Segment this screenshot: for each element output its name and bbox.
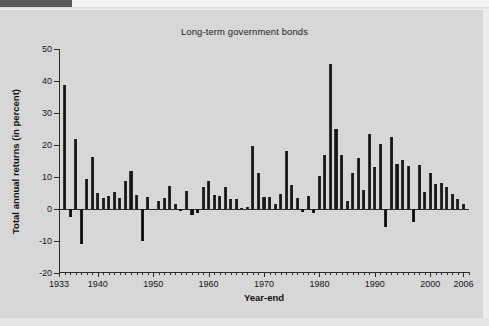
bar (96, 193, 99, 209)
bar (69, 209, 72, 217)
x-tick-minor (137, 272, 138, 276)
x-tick-minor (364, 272, 365, 276)
x-tick-minor (70, 272, 71, 276)
x-tick-minor (131, 272, 132, 276)
y-tick-label: 50 (42, 44, 52, 54)
x-tick-minor (170, 272, 171, 276)
x-tick-minor (303, 272, 304, 276)
x-tick-minor (347, 272, 348, 276)
x-tick-minor (186, 272, 187, 276)
x-tick-minor (380, 272, 381, 276)
y-tick-label: 40 (42, 76, 52, 86)
x-tick-minor (247, 272, 248, 276)
x-tick-major (209, 272, 210, 278)
x-tick-major (430, 272, 431, 278)
bar (357, 158, 360, 209)
bar (340, 155, 343, 209)
x-tick-minor (386, 272, 387, 276)
bar (401, 160, 404, 209)
x-tick-minor (270, 272, 271, 276)
bar (285, 151, 288, 209)
bar (312, 209, 315, 213)
bar (362, 190, 365, 209)
bar (63, 85, 66, 209)
x-tick-minor (353, 272, 354, 276)
x-tick-minor (87, 272, 88, 276)
x-tick-minor (336, 272, 337, 276)
y-tick-label: 10 (42, 172, 52, 182)
bar (445, 187, 448, 209)
x-tick-minor (103, 272, 104, 276)
bar (412, 209, 415, 222)
x-tick-minor (258, 272, 259, 276)
bar (213, 195, 216, 209)
x-tick-minor (175, 272, 176, 276)
x-tick-minor (125, 272, 126, 276)
bar (251, 146, 254, 209)
bar (390, 137, 393, 209)
y-tick-label: 0 (47, 204, 52, 214)
y-tick-label: -10 (39, 236, 52, 246)
bar (429, 173, 432, 209)
chart-title: Long-term government bonds (0, 26, 489, 37)
y-tick (54, 113, 59, 114)
x-tick-major (319, 272, 320, 278)
x-tick-minor (159, 272, 160, 276)
bar (257, 173, 260, 209)
x-tick-minor (236, 272, 237, 276)
x-tick-label: 1980 (309, 279, 329, 289)
page-header-bar (0, 0, 72, 7)
x-tick-minor (275, 272, 276, 276)
bar (185, 191, 188, 209)
x-tick-minor (436, 272, 437, 276)
bar (240, 208, 243, 209)
x-tick-label: 1960 (199, 279, 219, 289)
bar (262, 197, 265, 209)
bar (346, 201, 349, 209)
x-tick-minor (397, 272, 398, 276)
x-tick-minor (297, 272, 298, 276)
bar (224, 187, 227, 209)
x-tick-label: 1990 (365, 279, 385, 289)
x-tick-minor (92, 272, 93, 276)
x-tick-minor (114, 272, 115, 276)
bar (418, 165, 421, 209)
x-tick-minor (408, 272, 409, 276)
x-tick-minor (447, 272, 448, 276)
bar (85, 179, 88, 209)
x-tick-minor (458, 272, 459, 276)
x-tick-minor (391, 272, 392, 276)
bar (202, 187, 205, 209)
x-tick-minor (325, 272, 326, 276)
x-tick-minor (308, 272, 309, 276)
x-tick-major (153, 272, 154, 278)
y-axis-title-text: Total annual returns (in percent) (10, 89, 21, 234)
bar (141, 209, 144, 241)
bar (80, 209, 83, 244)
bar (107, 196, 110, 209)
x-tick-minor (76, 272, 77, 276)
bar (407, 166, 410, 209)
bar (301, 209, 304, 212)
x-tick-minor (231, 272, 232, 276)
bar (179, 209, 182, 211)
x-tick-minor (281, 272, 282, 276)
x-tick-label: 1950 (143, 279, 163, 289)
x-tick-minor (214, 272, 215, 276)
y-tick-label: 20 (42, 140, 52, 150)
bar (102, 198, 105, 209)
x-tick-minor (369, 272, 370, 276)
x-tick-minor (65, 272, 66, 276)
x-tick-minor (81, 272, 82, 276)
bar (91, 157, 94, 209)
x-tick-minor (120, 272, 121, 276)
bar (207, 181, 210, 209)
bar (423, 192, 426, 209)
x-tick-label: 2000 (420, 279, 440, 289)
x-tick-minor (414, 272, 415, 276)
x-tick-minor (425, 272, 426, 276)
y-tick (54, 145, 59, 146)
y-tick (54, 241, 59, 242)
y-axis-title: Total annual returns (in percent) (8, 49, 22, 273)
x-tick-minor (286, 272, 287, 276)
